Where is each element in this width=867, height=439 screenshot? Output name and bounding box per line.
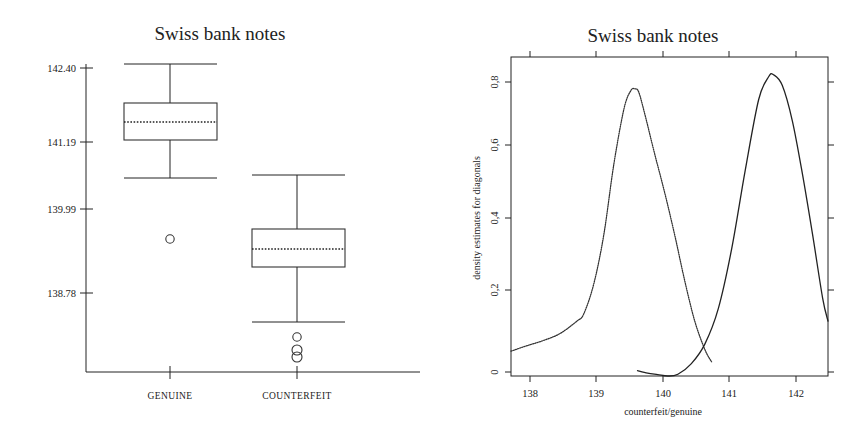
y-tick-label-3: 138.78 [47,288,76,299]
density-x-tick-label-2: 140 [655,388,671,399]
y-tick-label-2: 139.99 [47,204,76,215]
y-tick-label-1: 141.19 [47,137,76,148]
density-x-axis-label: counterfeit/genuine [624,406,702,417]
density-x-tick-label-4: 142 [788,388,804,399]
density-svg: Swiss bank notes 138 139 140 141 142 [440,0,867,439]
figure-canvas: Swiss bank notes 142.40 141.19 139.99 13… [0,0,867,439]
outlier-point-counterfeit-1 [293,333,301,341]
density-y-axis-label: density estimates for diagonals [471,156,482,280]
y-tick-label-0: 142.40 [47,63,76,74]
boxplot-panel: Swiss bank notes 142.40 141.19 139.99 13… [0,0,440,439]
density-title: Swiss bank notes [588,25,719,46]
category-label-counterfeit: COUNTERFEIT [262,391,331,401]
density-y-tick-label-2: 0,4 [489,211,500,225]
density-panel: Swiss bank notes 138 139 140 141 142 [440,0,867,439]
density-plot-frame [511,57,828,376]
density-y-tick-label-3: 0,6 [489,138,500,151]
boxplot-title: Swiss bank notes [155,23,286,44]
density-y-tick-label-0: 0 [489,369,500,374]
density-curve-counterfeit [511,88,712,361]
density-y-tick-label-1: 0,2 [489,283,500,296]
density-x-tick-label-3: 141 [721,388,737,399]
category-label-genuine: GENUINE [147,391,192,401]
density-curve-genuine [638,73,828,376]
boxplot-group-counterfeit [252,175,345,362]
density-y-ticks [505,82,834,372]
box-counterfeit [252,229,345,267]
outlier-point-counterfeit-3 [292,352,302,362]
boxplot-group-genuine [124,64,217,243]
density-x-ticks [530,51,796,382]
density-x-tick-label-1: 139 [588,388,604,399]
boxplot-svg: Swiss bank notes 142.40 141.19 139.99 13… [0,0,440,439]
density-y-tick-label-4: 0,8 [489,75,500,88]
outlier-point-genuine-1 [166,235,174,243]
density-x-tick-label-0: 138 [522,388,538,399]
